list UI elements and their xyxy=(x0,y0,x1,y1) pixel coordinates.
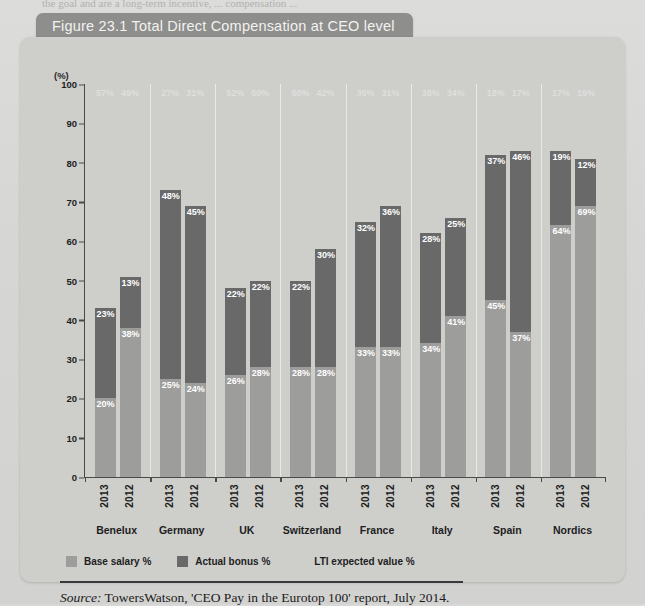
bar-uk-2012[interactable]: 28%22% xyxy=(250,281,271,478)
segment-bonus-label: 45% xyxy=(187,207,205,218)
segment-base-salary: 20% xyxy=(95,398,116,477)
segment-bonus-label: 22% xyxy=(252,282,270,293)
source-note: Source: TowersWatson, 'CEO Pay in the Eu… xyxy=(60,590,449,606)
segment-base-salary: 28% xyxy=(290,367,311,477)
x-label-year-benelux-2012: 2012 xyxy=(124,484,135,508)
bar-uk-2013[interactable]: 26%22% xyxy=(225,288,246,477)
segment-base-salary: 33% xyxy=(380,347,401,477)
bar-switzerland-2013[interactable]: 28%22% xyxy=(290,281,311,478)
x-label-year-germany-2013: 2013 xyxy=(164,484,175,508)
segment-base-salary: 41% xyxy=(445,316,466,477)
bar-spain-2013[interactable]: 45%37% xyxy=(485,155,506,477)
segment-base-salary: 45% xyxy=(485,300,506,477)
legend-item-actual-bonus[interactable]: Actual bonus % xyxy=(177,556,270,567)
x-label-country-benelux: Benelux xyxy=(96,524,137,536)
group-separator xyxy=(346,84,347,477)
segment-base-salary: 25% xyxy=(160,379,181,477)
segment-base-salary: 24% xyxy=(185,383,206,477)
y-axis-tick-70: 70 xyxy=(49,196,77,207)
bar-benelux-2012[interactable]: 38%13% xyxy=(120,277,141,477)
segment-bonus-label: 25% xyxy=(447,219,465,230)
bar-italy-2013[interactable]: 34%28% xyxy=(420,233,441,477)
lti-label-germany-2012: 31% xyxy=(185,88,206,98)
bar-benelux-2013[interactable]: 20%23% xyxy=(95,308,116,477)
lti-label-benelux-2013: 57% xyxy=(95,88,116,98)
segment-base-label: 41% xyxy=(447,317,465,328)
segment-bonus-label: 32% xyxy=(357,223,375,234)
segment-base-salary: 28% xyxy=(250,367,271,477)
legend-label-actual-bonus: Actual bonus % xyxy=(195,556,270,567)
bar-france-2012[interactable]: 33%36% xyxy=(380,206,401,477)
x-axis-tick xyxy=(150,477,151,482)
bar-spain-2012[interactable]: 37%46% xyxy=(510,151,531,477)
bar-switzerland-2012[interactable]: 28%30% xyxy=(315,249,336,477)
segment-base-salary: 26% xyxy=(225,375,246,477)
group-separator xyxy=(411,84,412,477)
lti-label-switzerland-2013: 50% xyxy=(290,88,311,98)
bar-germany-2013[interactable]: 25%48% xyxy=(160,190,181,477)
segment-base-label: 45% xyxy=(487,301,505,312)
bar-france-2013[interactable]: 33%32% xyxy=(355,222,376,477)
segment-base-salary: 28% xyxy=(315,367,336,477)
x-label-year-spain-2013: 2013 xyxy=(490,484,501,508)
y-axis-tick-40: 40 xyxy=(49,314,77,325)
lti-label-italy-2012: 34% xyxy=(445,88,466,98)
lti-label-france-2012: 31% xyxy=(380,88,401,98)
segment-actual-bonus: 23% xyxy=(95,308,116,398)
y-axis-tick-90: 90 xyxy=(49,118,77,129)
segment-base-salary: 37% xyxy=(510,332,531,477)
lti-label-spain-2012: 17% xyxy=(510,88,531,98)
x-axis-tick xyxy=(280,477,281,482)
segment-bonus-label: 23% xyxy=(97,309,115,320)
bar-italy-2012[interactable]: 41%25% xyxy=(445,218,466,477)
figure-panel: (%) 010203040506070809010020%23%57%38%13… xyxy=(20,37,625,582)
segment-bonus-label: 12% xyxy=(577,160,595,171)
y-axis-tick-80: 80 xyxy=(49,157,77,168)
legend-item-base-salary[interactable]: Base salary % xyxy=(66,556,151,567)
lti-label-benelux-2012: 49% xyxy=(120,88,141,98)
group-separator xyxy=(215,84,216,477)
figure-title: Figure 23.1 Total Direct Compensation at… xyxy=(52,18,395,34)
x-label-year-uk-2013: 2013 xyxy=(229,484,240,508)
x-label-year-spain-2012: 2012 xyxy=(515,484,526,508)
segment-actual-bonus: 28% xyxy=(420,233,441,343)
x-axis-tick xyxy=(85,477,86,482)
source-text: TowersWatson, 'CEO Pay in the Eurotop 10… xyxy=(101,590,449,605)
x-axis-tick xyxy=(605,477,606,482)
bar-nordics-2013[interactable]: 64%19% xyxy=(550,151,571,477)
segment-actual-bonus: 19% xyxy=(550,151,571,226)
x-label-country-italy: Italy xyxy=(432,524,453,536)
segment-bonus-label: 22% xyxy=(292,282,310,293)
x-label-country-germany: Germany xyxy=(159,524,205,536)
legend-swatch-actual-bonus xyxy=(177,556,188,567)
legend-item-lti-expected-value[interactable]: LTI expected value % xyxy=(296,556,414,567)
segment-actual-bonus: 36% xyxy=(380,206,401,347)
segment-base-salary: 69% xyxy=(575,206,596,477)
segment-actual-bonus: 32% xyxy=(355,222,376,348)
y-axis-tick-10: 10 xyxy=(49,432,77,443)
group-separator xyxy=(150,84,151,477)
bar-nordics-2012[interactable]: 69%12% xyxy=(575,159,596,477)
legend-label-lti-expected-value: LTI expected value % xyxy=(314,556,414,567)
lti-label-italy-2013: 38% xyxy=(420,88,441,98)
segment-base-label: 20% xyxy=(97,399,115,410)
bar-germany-2012[interactable]: 24%45% xyxy=(185,206,206,477)
segment-base-label: 33% xyxy=(357,348,375,359)
segment-base-salary: 38% xyxy=(120,328,141,477)
segment-base-label: 28% xyxy=(317,368,335,379)
segment-base-label: 28% xyxy=(292,368,310,379)
x-label-year-switzerland-2012: 2012 xyxy=(319,484,330,508)
x-label-country-france: France xyxy=(360,524,394,536)
lti-label-france-2013: 35% xyxy=(355,88,376,98)
y-axis-tick-100: 100 xyxy=(49,79,77,90)
segment-actual-bonus: 22% xyxy=(290,281,311,367)
figure-title-tab: Figure 23.1 Total Direct Compensation at… xyxy=(36,13,413,38)
x-label-year-germany-2012: 2012 xyxy=(189,484,200,508)
group-separator xyxy=(280,84,281,477)
segment-actual-bonus: 22% xyxy=(225,288,246,374)
y-axis-tick-50: 50 xyxy=(49,275,77,286)
segment-actual-bonus: 13% xyxy=(120,277,141,328)
x-label-year-italy-2012: 2012 xyxy=(450,484,461,508)
x-label-country-nordics: Nordics xyxy=(553,524,592,536)
